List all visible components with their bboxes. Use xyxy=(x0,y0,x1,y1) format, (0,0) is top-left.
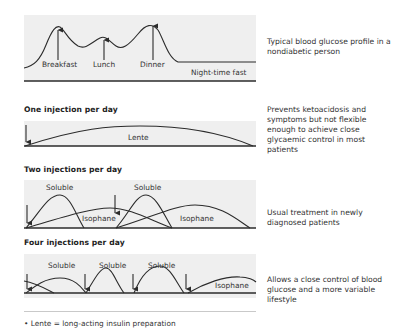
label-soluble-1: Soluble xyxy=(46,183,73,192)
label-breakfast: Breakfast xyxy=(42,60,77,69)
label-soluble-a: Soluble xyxy=(48,261,75,270)
label-soluble-2: Soluble xyxy=(134,183,161,192)
label-isophane-1: Isophane xyxy=(82,214,116,223)
heading-one-injection: One injection per day xyxy=(24,105,118,114)
heading-two-injections: Two injections per day xyxy=(24,165,122,174)
desc-nondiabetic: Typical blood glucose profile in a nondi… xyxy=(267,37,397,57)
label-isophane-4: Isophane xyxy=(215,281,249,290)
footnote-divider xyxy=(24,311,256,312)
label-soluble-c: Soluble xyxy=(148,261,175,270)
label-lunch: Lunch xyxy=(93,60,115,69)
label-lente: Lente xyxy=(128,133,149,142)
label-night-fast: Night-time fast xyxy=(191,68,246,77)
desc-four-injections: Allows a close control of blood glucose … xyxy=(267,275,397,305)
desc-one-injection: Prevents ketoacidosis and symptoms but n… xyxy=(267,105,397,155)
label-dinner: Dinner xyxy=(140,60,165,69)
label-isophane-2: Isophane xyxy=(180,214,214,223)
desc-two-injections: Usual treatment in newly diagnosed patie… xyxy=(267,208,397,228)
heading-four-injections: Four injections per day xyxy=(24,238,125,247)
label-soluble-b: Soluble xyxy=(99,261,126,270)
footnote: • Lente = long-acting insulin preparatio… xyxy=(24,319,176,328)
